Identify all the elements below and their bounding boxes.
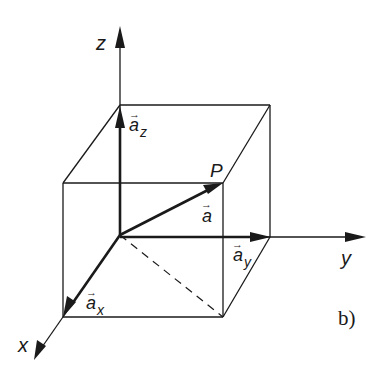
svg-text:x: x bbox=[96, 302, 105, 318]
z-axis-label: z bbox=[95, 32, 106, 54]
panel-label: b) bbox=[338, 306, 356, 330]
component-ax-label: → a x bbox=[86, 286, 105, 318]
vector-a-label: → a bbox=[201, 198, 212, 226]
svg-text:y: y bbox=[243, 254, 252, 270]
z-axis-arrowhead bbox=[115, 26, 125, 48]
component-ay-label: → a y bbox=[232, 238, 252, 270]
svg-text:z: z bbox=[139, 124, 147, 140]
projection-dashed-line bbox=[120, 235, 223, 317]
point-p-label: P bbox=[210, 160, 223, 181]
svg-text:a: a bbox=[86, 293, 96, 313]
x-axis-label: x bbox=[17, 334, 29, 356]
component-az-label: → a z bbox=[129, 108, 147, 140]
svg-text:a: a bbox=[202, 206, 212, 226]
svg-text:a: a bbox=[129, 115, 139, 135]
y-axis-label: y bbox=[339, 247, 352, 269]
y-axis-arrowhead bbox=[345, 232, 366, 242]
svg-text:a: a bbox=[233, 245, 243, 265]
vector-decomposition-diagram: z y x P → a → a z → a y → a x b) bbox=[0, 0, 382, 374]
